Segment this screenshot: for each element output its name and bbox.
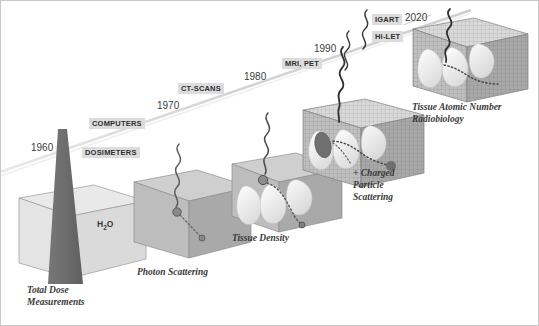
caption-charged-particle-scattering: + Charged Particle Scattering <box>353 168 395 204</box>
era-tag-ct-scans: CT-SCANS <box>178 83 224 94</box>
year-label-2020: 2020 <box>405 13 427 23</box>
bracket-squiggle-igart <box>362 10 367 49</box>
photon-track-scene5 <box>445 9 452 62</box>
photon-track-scene3 <box>264 113 270 174</box>
year-label-1960: 1960 <box>31 143 53 153</box>
h2o-label: H2O <box>97 219 113 231</box>
caption-tissue-density: Tissue Density <box>232 233 289 245</box>
era-tag-computers: COMPUTERS <box>89 118 145 129</box>
year-label-1990: 1990 <box>314 44 336 54</box>
radiotherapy-timeline-figure: 1960 1970 1980 1990 2020 DOSIMETERS COMP… <box>0 0 539 326</box>
photon-track-scene4 <box>338 47 344 122</box>
scatter-trail-scene2 <box>180 215 200 236</box>
charged-particle-track-scene5 <box>444 65 498 84</box>
era-tag-dosimeters: DOSIMETERS <box>82 147 140 158</box>
era-tag-igart: IGART <box>372 14 402 25</box>
particle-tracks <box>1 1 538 325</box>
caption-photon-scattering: Photon Scattering <box>137 267 208 279</box>
charged-particle-track-b-scene4 <box>333 143 351 164</box>
photon-track-scene2 <box>175 144 181 207</box>
caption-tissue-atomic-number-radiobiology: Tissue Atomic Number Radiobiology <box>412 102 502 126</box>
era-tag-mri-pet: MRI, PET <box>282 58 322 69</box>
caption-total-dose-measurements: Total Dose Measurements <box>27 285 85 309</box>
charged-particle-track-a-scene4 <box>333 141 388 165</box>
year-label-1970: 1970 <box>157 101 179 111</box>
era-tag-hi-let: Hi-LET <box>372 31 403 42</box>
year-label-1980: 1980 <box>244 72 266 82</box>
scatter-trail-scene3 <box>267 183 300 223</box>
